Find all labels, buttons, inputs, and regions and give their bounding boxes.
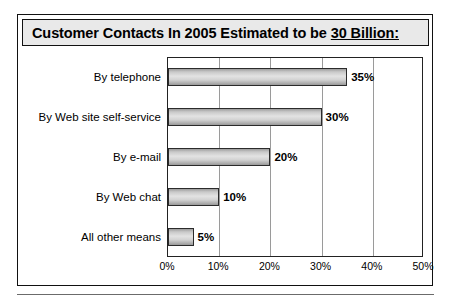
chart-plot-body: By telephone35%By Web site self-service3… (18, 51, 432, 285)
chart-title-bar: Customer Contacts In 2005 Estimated to b… (22, 19, 429, 46)
x-tick-label: 40% (361, 260, 382, 272)
category-label: By telephone (18, 71, 161, 83)
bar (168, 148, 270, 166)
title-prefix: Customer Contacts In 2005 Estimated to b… (32, 25, 331, 41)
x-tick-label: 10% (208, 260, 229, 272)
bar-rows: By telephone35%By Web site self-service3… (18, 57, 432, 257)
bar-group: 10% (168, 188, 246, 206)
bar-value-label: 20% (274, 151, 297, 163)
x-tick-label: 0% (159, 260, 174, 272)
bar-value-label: 5% (198, 231, 215, 243)
bar-row: By Web site self-service30% (18, 97, 432, 137)
bar (168, 108, 322, 126)
bar (168, 228, 194, 246)
bar-row: By Web chat10% (18, 177, 432, 217)
category-label: All other means (18, 231, 161, 243)
bar-group: 5% (168, 228, 214, 246)
bottom-divider (17, 294, 434, 295)
bar-row: By telephone35% (18, 57, 432, 97)
bar (168, 68, 347, 86)
x-tick-label: 30% (310, 260, 331, 272)
bar-row: All other means5% (18, 217, 432, 257)
bar-group: 20% (168, 148, 297, 166)
bar-value-label: 30% (326, 111, 349, 123)
bar-value-label: 35% (351, 71, 374, 83)
chart-figure-frame: Customer Contacts In 2005 Estimated to b… (17, 14, 433, 286)
bar (168, 188, 219, 206)
page-title: Customer Contacts In 2005 Estimated to b… (23, 25, 399, 41)
x-tick-label: 50% (412, 260, 433, 272)
bar-group: 35% (168, 68, 374, 86)
category-label: By e-mail (18, 151, 161, 163)
x-tick-label: 20% (259, 260, 280, 272)
bar-value-label: 10% (223, 191, 246, 203)
x-axis-tick-labels: 0%10%20%30%40%50% (167, 260, 423, 276)
category-label: By Web chat (18, 191, 161, 203)
bar-row: By e-mail20% (18, 137, 432, 177)
title-underlined-part: 30 Billion: (331, 25, 399, 41)
category-label: By Web site self-service (18, 111, 161, 123)
bar-group: 30% (168, 108, 349, 126)
